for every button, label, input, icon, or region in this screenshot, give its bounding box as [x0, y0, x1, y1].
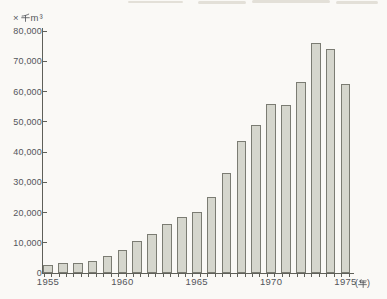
bar [73, 263, 83, 273]
bar [88, 261, 98, 273]
x-minor-tick [155, 274, 156, 277]
y-tick [43, 61, 47, 62]
y-tick [43, 242, 47, 243]
x-minor-tick [222, 274, 223, 277]
x-minor-tick [297, 274, 298, 277]
x-minor-tick [148, 274, 149, 277]
y-tick [43, 152, 47, 153]
y-tick-label: 80,000 [2, 26, 42, 36]
x-minor-tick [252, 274, 253, 277]
bar [296, 82, 306, 273]
bar [177, 217, 187, 273]
y-tick [43, 31, 47, 32]
bar [266, 104, 276, 273]
x-minor-tick [66, 274, 67, 277]
bar [311, 43, 321, 273]
x-minor-tick [140, 274, 141, 277]
bar [281, 105, 291, 273]
y-axis-line [42, 28, 43, 273]
bar [207, 197, 217, 273]
y-tick-label: 40,000 [2, 147, 42, 157]
y-tick-label: 10,000 [2, 238, 42, 248]
kanji-nen-glyph [358, 279, 367, 288]
x-tick-label: 1960 [107, 277, 137, 287]
bar [58, 263, 68, 273]
x-minor-tick [215, 274, 216, 277]
y-tick-label: 30,000 [2, 177, 42, 187]
text: ) [367, 278, 370, 288]
x-minor-tick [81, 274, 82, 277]
bar [147, 234, 157, 273]
y-tick [43, 121, 47, 122]
y-tick [43, 212, 47, 213]
x-axis-year-label: () [355, 278, 370, 288]
y-tick-label: 70,000 [2, 56, 42, 66]
x-minor-tick [73, 274, 74, 277]
y-tick-label: 20,000 [2, 208, 42, 218]
x-tick-label: 1955 [33, 277, 63, 287]
x-minor-tick [237, 274, 238, 277]
x-minor-tick [96, 274, 97, 277]
x-minor-tick [103, 274, 104, 277]
bar [192, 212, 202, 273]
x-tick-label: 1970 [256, 277, 286, 287]
bar [251, 125, 261, 273]
x-minor-tick [304, 274, 305, 277]
bar [222, 173, 232, 273]
x-minor-tick [178, 274, 179, 277]
x-tick-label: 1965 [182, 277, 212, 287]
x-minor-tick [230, 274, 231, 277]
x-minor-tick [245, 274, 246, 277]
bar [326, 49, 336, 273]
plot-area: 80,00070,00060,00050,00040,00030,00020,0… [0, 0, 387, 299]
x-minor-tick [88, 274, 89, 277]
x-minor-tick [170, 274, 171, 277]
bar [132, 241, 142, 273]
y-tick [43, 91, 47, 92]
x-minor-tick [326, 274, 327, 277]
y-tick [43, 182, 47, 183]
bar [103, 256, 113, 273]
x-minor-tick [319, 274, 320, 277]
bar [118, 250, 128, 273]
scanned-bar-chart: ×m³ 80,00070,00060,00050,00040,00030,000… [0, 0, 387, 299]
x-minor-tick [163, 274, 164, 277]
y-tick-label: 50,000 [2, 117, 42, 127]
bar [341, 84, 351, 273]
x-minor-tick [289, 274, 290, 277]
bar [237, 141, 247, 273]
y-tick-label: 60,000 [2, 87, 42, 97]
bar [162, 224, 172, 273]
x-minor-tick [311, 274, 312, 277]
bar [43, 265, 53, 273]
